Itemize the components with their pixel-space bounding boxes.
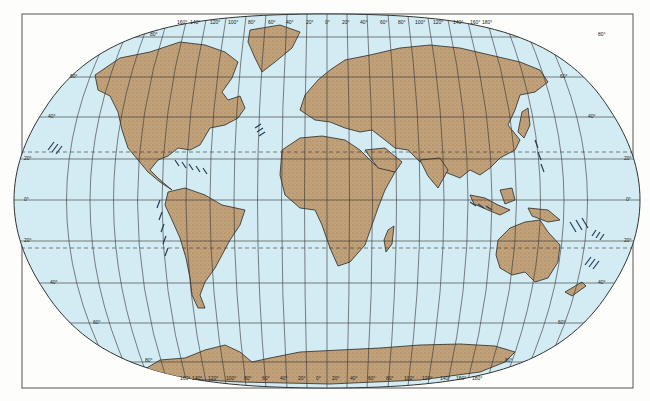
svg-text:20°: 20° (24, 155, 32, 161)
svg-text:20°: 20° (624, 155, 632, 161)
svg-text:80°: 80° (398, 19, 406, 25)
svg-text:100°: 100° (228, 19, 238, 25)
svg-text:80°: 80° (145, 357, 153, 363)
svg-text:40°: 40° (598, 279, 606, 285)
svg-text:160°: 160° (470, 19, 480, 25)
svg-text:80°: 80° (150, 31, 158, 37)
svg-text:20°: 20° (298, 375, 306, 381)
svg-text:120°: 120° (208, 375, 218, 381)
svg-text:20°: 20° (342, 19, 350, 25)
svg-text:60°: 60° (268, 19, 276, 25)
svg-text:40°: 40° (350, 375, 358, 381)
svg-text:20°: 20° (624, 237, 632, 243)
svg-text:120°: 120° (433, 19, 443, 25)
svg-text:120°: 120° (422, 375, 432, 381)
svg-text:180°: 180° (472, 375, 482, 381)
svg-text:120°: 120° (210, 19, 220, 25)
svg-text:40°: 40° (48, 113, 56, 119)
svg-text:140°: 140° (440, 375, 450, 381)
svg-text:60°: 60° (93, 319, 101, 325)
svg-text:60°: 60° (70, 73, 78, 79)
svg-text:140°: 140° (190, 19, 200, 25)
svg-text:80°: 80° (244, 375, 252, 381)
world-map: 80° 60° 40° 20° 0° 20° 40° 60° 80° 80° 6… (0, 0, 650, 401)
svg-text:100°: 100° (415, 19, 425, 25)
svg-text:80°: 80° (505, 357, 513, 363)
svg-text:160°: 160° (180, 375, 190, 381)
svg-text:140°: 140° (453, 19, 463, 25)
svg-text:0°: 0° (626, 196, 631, 202)
svg-text:20°: 20° (24, 237, 32, 243)
svg-text:60°: 60° (560, 73, 568, 79)
svg-text:40°: 40° (280, 375, 288, 381)
svg-text:80°: 80° (598, 31, 606, 37)
svg-text:60°: 60° (262, 375, 270, 381)
svg-text:0°: 0° (316, 375, 321, 381)
svg-text:80°: 80° (248, 19, 256, 25)
svg-text:40°: 40° (588, 113, 596, 119)
svg-text:100°: 100° (404, 375, 414, 381)
svg-text:20°: 20° (306, 19, 314, 25)
svg-text:40°: 40° (50, 279, 58, 285)
svg-text:140°: 140° (192, 375, 202, 381)
svg-text:40°: 40° (286, 19, 294, 25)
svg-text:60°: 60° (368, 375, 376, 381)
svg-text:60°: 60° (380, 19, 388, 25)
svg-text:100°: 100° (226, 375, 236, 381)
svg-text:160°: 160° (456, 375, 466, 381)
svg-text:40°: 40° (360, 19, 368, 25)
svg-text:80°: 80° (386, 375, 394, 381)
svg-text:60°: 60° (558, 319, 566, 325)
svg-text:0°: 0° (24, 196, 29, 202)
svg-text:0°: 0° (325, 19, 330, 25)
svg-text:160°: 160° (177, 19, 187, 25)
svg-text:180°: 180° (482, 19, 492, 25)
svg-text:20°: 20° (332, 375, 340, 381)
